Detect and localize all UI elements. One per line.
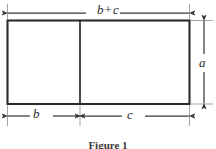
label-top-total: b+c <box>0 3 216 16</box>
plus-operator: + <box>104 3 113 17</box>
rectangle-outline <box>8 21 190 105</box>
geometry-diagram <box>0 0 216 149</box>
label-top-total-c: c <box>113 2 119 17</box>
label-bottom-b: b <box>33 107 40 120</box>
label-top-total-b: b <box>97 2 104 17</box>
label-bottom-c: c <box>127 108 133 121</box>
label-right-a: a <box>199 56 206 69</box>
figure-container: b+c b c a Figure 1 <box>0 0 216 149</box>
figure-caption: Figure 1 <box>0 139 216 149</box>
